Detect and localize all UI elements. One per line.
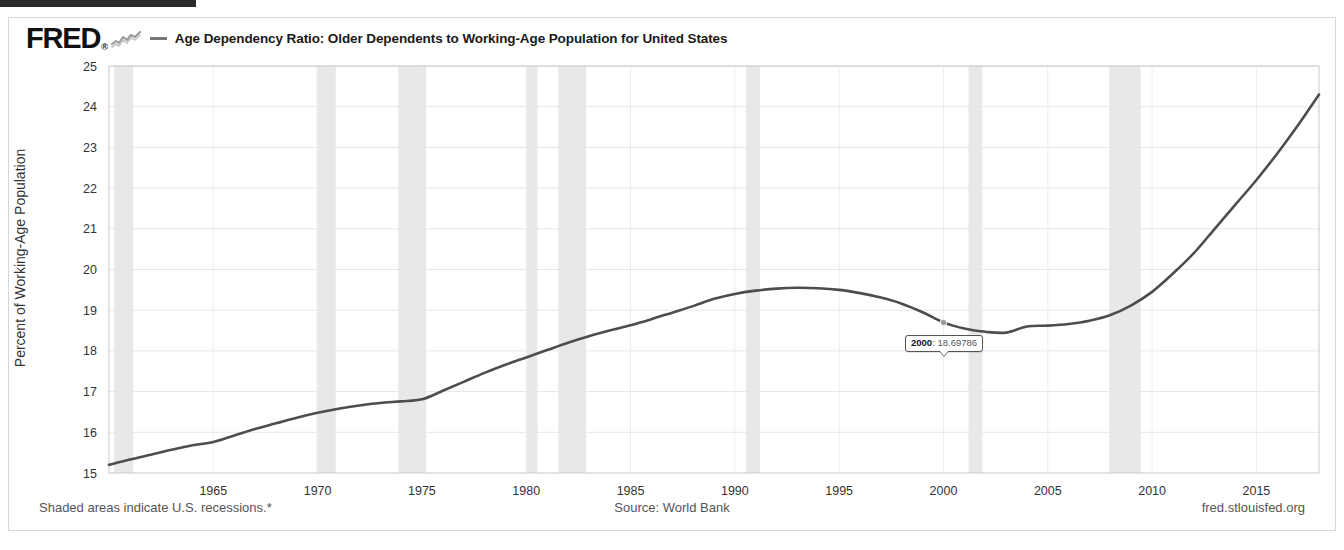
- tooltip-year: 2000: [911, 337, 932, 348]
- y-axis-tick-label: 15: [83, 467, 97, 481]
- y-axis-tick-label: 25: [83, 60, 97, 74]
- fred-wordmark: FRED: [26, 24, 100, 53]
- y-axis-ticks: 1516171819202122232425: [83, 60, 97, 481]
- fred-website-link[interactable]: fred.stlouisfed.org: [1202, 500, 1305, 515]
- chart-plot-area: Percent of Working-Age Population 151617…: [9, 58, 1337, 496]
- y-axis-tick-label: 16: [83, 426, 97, 440]
- registered-trademark-icon: ®: [101, 43, 108, 52]
- recession-note: Shaded areas indicate U.S. recessions.*: [39, 500, 272, 515]
- cropped-top-bar: [0, 0, 196, 7]
- highlighted-data-point[interactable]: [940, 319, 946, 325]
- fred-graph-card: FRED ® Age Dependency Ratio: Older Depen…: [8, 17, 1336, 531]
- chart-header: FRED ® Age Dependency Ratio: Older Depen…: [9, 18, 1335, 58]
- y-axis-tick-label: 18: [83, 344, 97, 358]
- fred-logo[interactable]: FRED ®: [26, 24, 141, 53]
- y-axis-tick-label: 22: [83, 182, 97, 196]
- chart-footer: Shaded areas indicate U.S. recessions.* …: [9, 484, 1335, 530]
- y-axis-tick-label: 20: [83, 263, 97, 277]
- fred-graph-screenshot: FRED ® Age Dependency Ratio: Older Depen…: [0, 0, 1344, 550]
- source-note: Source: World Bank: [614, 500, 729, 515]
- y-axis-tick-label: 19: [83, 304, 97, 318]
- chart-title: Age Dependency Ratio: Older Dependents t…: [175, 31, 728, 46]
- y-axis-tick-label: 23: [83, 141, 97, 155]
- tooltip-value: 18.69786: [937, 337, 977, 348]
- chart-svg: 1516171819202122232425 19651970197519801…: [9, 58, 1337, 496]
- y-axis-tick-label: 17: [83, 385, 97, 399]
- y-axis-tick-label: 21: [83, 222, 97, 236]
- tooltip-pointer-icon: [939, 350, 949, 356]
- legend-line-swatch: [150, 37, 167, 40]
- sparkline-icon: [111, 31, 141, 52]
- y-axis-tick-label: 24: [83, 100, 97, 114]
